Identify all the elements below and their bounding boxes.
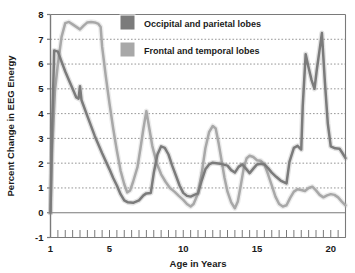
chart-legend-layer: Occipital and parietal lobesFrontal and … (120, 15, 261, 57)
y-tick-label: 0 (38, 207, 43, 218)
legend-label: Occipital and parietal lobes (144, 19, 261, 29)
y-tick-label: 7 (38, 34, 43, 45)
x-tick-label: 10 (178, 243, 189, 254)
legend-swatch (120, 42, 135, 57)
x-tick-label: 1 (48, 243, 54, 254)
x-tick-label: 20 (325, 243, 336, 254)
y-tick-label: 1 (38, 182, 44, 193)
legend-swatch (120, 15, 135, 30)
chart-canvas: -101234567815101520 Occipital and pariet… (0, 0, 355, 273)
y-tick-label: 6 (38, 58, 43, 69)
y-tick-label: 2 (38, 158, 43, 169)
legend-label: Frontal and temporal lobes (144, 46, 260, 56)
y-tick-label: 3 (38, 133, 43, 144)
eeg-energy-line-chart: -101234567815101520 Occipital and pariet… (0, 0, 355, 273)
y-tick-label: -1 (35, 232, 44, 243)
y-axis-title: Percent Change in EEG Energy (5, 55, 16, 197)
y-tick-label: 4 (38, 108, 44, 119)
y-tick-label: 5 (38, 83, 44, 94)
x-tick-label: 5 (107, 243, 113, 254)
x-tick-label: 15 (252, 243, 263, 254)
x-axis-title: Age in Years (170, 258, 227, 269)
y-tick-label: 8 (38, 9, 43, 20)
